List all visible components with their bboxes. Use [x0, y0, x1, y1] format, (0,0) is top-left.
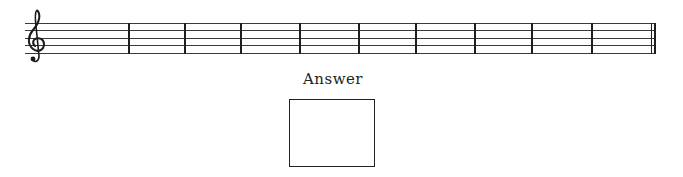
staff-line-2: [25, 30, 656, 31]
staff-line-1: [25, 23, 656, 24]
final-barline-thick: [654, 23, 656, 54]
answer-box[interactable]: [289, 99, 375, 167]
staff-line-3: [25, 38, 656, 39]
barline-8: [531, 23, 533, 54]
final-barline-thin: [651, 23, 652, 54]
barline-5: [358, 23, 360, 54]
barline-2: [184, 23, 186, 54]
barline-3: [240, 23, 242, 54]
barline-7: [474, 23, 476, 54]
staff-line-5: [25, 53, 656, 54]
staff-line-4: [25, 45, 656, 46]
music-staff: [0, 0, 683, 70]
barline-6: [415, 23, 417, 54]
barline-4: [299, 23, 301, 54]
treble-clef-icon: [25, 6, 47, 66]
barline-9: [591, 23, 593, 54]
barline-1: [128, 23, 130, 54]
answer-label: Answer: [270, 70, 396, 88]
